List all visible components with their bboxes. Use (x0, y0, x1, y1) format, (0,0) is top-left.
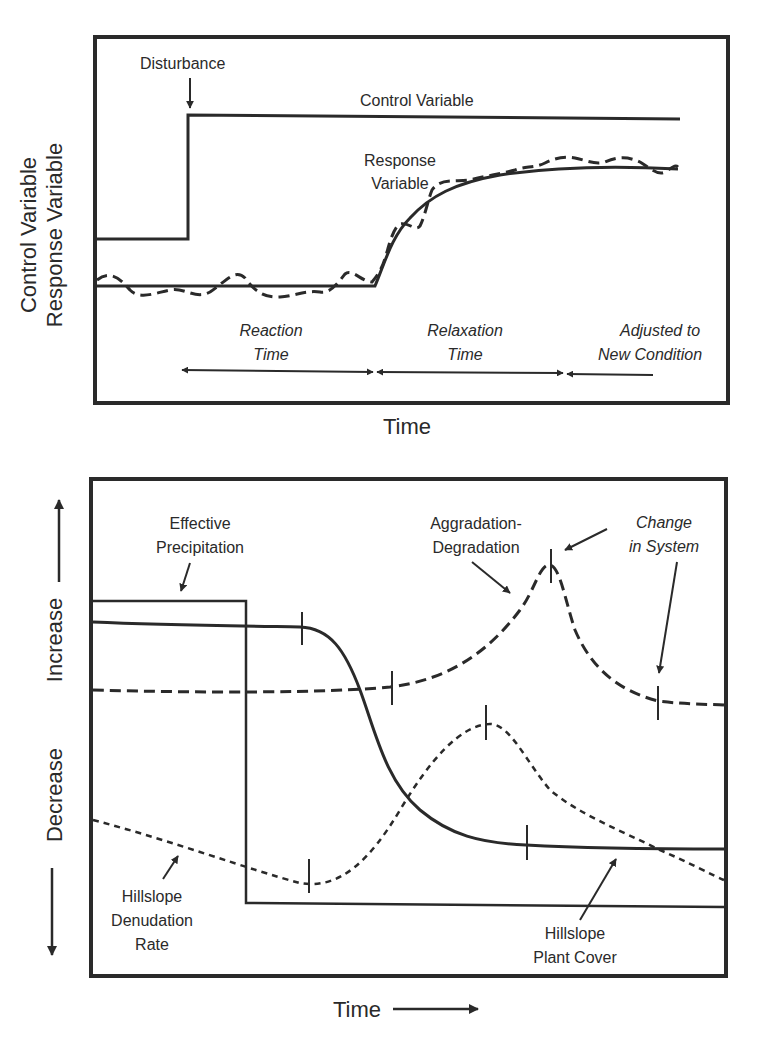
change-markers (302, 549, 658, 893)
diagram-canvas: Disturbance Control Variable Response Va… (0, 0, 757, 1047)
control-variable-label: Control Variable (360, 92, 474, 109)
plant-cover-line (93, 622, 724, 849)
aggradation-label-2: Degradation (432, 539, 519, 556)
relaxation-time-arrow-icon (377, 372, 563, 373)
change-in-system-arrow-1-icon (565, 529, 607, 550)
denudation-arrow-icon (163, 856, 178, 879)
relaxation-time-label-2: Time (447, 346, 483, 363)
aggradation-degradation-line (93, 565, 724, 705)
top-y-axis-label-1: Control Variable (16, 157, 41, 313)
effective-precipitation-arrow-icon (181, 563, 190, 591)
reaction-time-arrow-icon (182, 370, 373, 372)
decrease-label: Decrease (42, 748, 67, 842)
denudation-label-2: Denudation (111, 912, 193, 929)
denudation-label-1: Hillslope (122, 888, 183, 905)
aggradation-label-1: Aggradation- (430, 515, 522, 532)
bottom-x-axis-label: Time (333, 997, 381, 1022)
adjusted-arrow-icon (567, 374, 653, 375)
response-label-line2: Variable (371, 175, 429, 192)
top-chart: Disturbance Control Variable Response Va… (16, 37, 728, 439)
effective-precipitation-label-2: Precipitation (156, 539, 244, 556)
increase-label: Increase (42, 598, 67, 682)
top-y-axis-label-2: Response Variable (42, 143, 67, 327)
change-in-system-label-1: Change (636, 514, 692, 531)
disturbance-label: Disturbance (140, 55, 225, 72)
adjusted-label-1: Adjusted to (619, 322, 700, 339)
reaction-time-label-1: Reaction (239, 322, 302, 339)
effective-precipitation-line (93, 601, 724, 907)
change-in-system-arrow-2-icon (659, 562, 677, 673)
adjusted-label-2: New Condition (598, 346, 702, 363)
denudation-label-3: Rate (135, 936, 169, 953)
plant-cover-arrow-icon (580, 859, 616, 920)
plant-cover-label-2: Plant Cover (533, 949, 617, 966)
response-label-line1: Response (364, 152, 436, 169)
relaxation-time-label-1: Relaxation (427, 322, 503, 339)
bottom-chart: Effective Precipitation Aggradation- Deg… (42, 479, 726, 1022)
change-in-system-label-2: in System (629, 538, 699, 555)
denudation-rate-line (93, 724, 724, 884)
top-x-axis-label: Time (383, 414, 431, 439)
aggradation-arrow-icon (472, 562, 510, 593)
reaction-time-label-2: Time (253, 346, 289, 363)
plant-cover-label-1: Hillslope (545, 925, 606, 942)
effective-precipitation-label-1: Effective (169, 515, 230, 532)
